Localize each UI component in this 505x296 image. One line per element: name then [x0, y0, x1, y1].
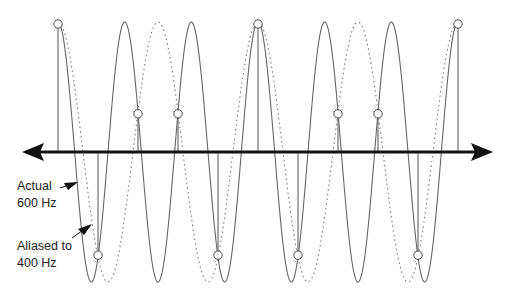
- aliasing-diagram: [0, 0, 505, 296]
- label-aliased-400hz: Aliased to 400 Hz: [17, 238, 72, 272]
- sample-point-marker: [94, 251, 102, 259]
- pointer-arrow-aliased-icon: [78, 224, 92, 235]
- sample-point-marker: [414, 251, 422, 259]
- sample-point-marker: [134, 110, 142, 118]
- sample-point-marker: [294, 251, 302, 259]
- sample-stems: [58, 22, 458, 257]
- label-pointers: [60, 182, 92, 238]
- sample-point-marker: [374, 110, 382, 118]
- sample-point-marker: [54, 20, 62, 28]
- sample-point-marker: [174, 110, 182, 118]
- sample-point-marker: [334, 110, 342, 118]
- sample-point-marker: [254, 20, 262, 28]
- pointer-arrow-actual-icon: [64, 182, 78, 190]
- sample-point-marker: [454, 20, 462, 28]
- sample-point-marker: [214, 251, 222, 259]
- label-actual-600hz: Actual 600 Hz: [17, 178, 57, 212]
